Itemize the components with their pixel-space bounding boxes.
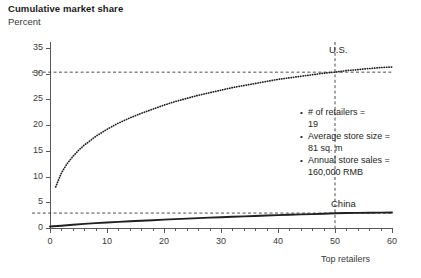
annotation-label: Average store size = [308, 131, 390, 141]
chart-subtitle: Percent [8, 16, 41, 27]
y-axis-label-20: 20 [14, 119, 43, 129]
x-axis-label-60: 60 [387, 236, 397, 246]
x-axis-label-20: 20 [159, 236, 169, 246]
y-axis-label-25: 25 [14, 93, 43, 103]
x-axis-label-50: 50 [330, 236, 340, 246]
annotation-item: Annual store sales =160,000 RMB [300, 155, 418, 178]
x-tick-60 [392, 228, 393, 233]
chart-figure: Cumulative market share Percent 05101520… [0, 0, 421, 278]
x-axis-title: Top retailers [321, 254, 370, 264]
annotation-item: Average store size =81 sq. m [300, 131, 418, 154]
annotation-label: Annual store sales = [308, 155, 390, 165]
y-axis-label-10: 10 [14, 171, 43, 181]
series-label-us: U.S. [329, 44, 347, 55]
y-axis-label-5: 5 [14, 196, 43, 206]
annotation-list: # of retailers =19Average store size =81… [300, 107, 418, 179]
annotation-box: # of retailers =19Average store size =81… [300, 107, 418, 180]
x-axis-label-10: 10 [102, 236, 112, 246]
chart-title: Cumulative market share [8, 3, 123, 14]
x-axis-label-30: 30 [216, 236, 226, 246]
y-axis-label-35: 35 [14, 42, 43, 52]
y-axis-label-15: 15 [14, 145, 43, 155]
annotation-item: # of retailers =19 [300, 107, 418, 130]
annotation-value: 81 sq. m [308, 143, 418, 155]
x-axis-label-0: 0 [47, 236, 52, 246]
annotation-label: # of retailers = [308, 107, 365, 117]
annotation-value: 160,000 RMB [308, 167, 418, 179]
series-label-china: China [331, 198, 356, 209]
annotation-value: 19 [308, 119, 418, 131]
x-axis-label-40: 40 [273, 236, 283, 246]
y-axis-label-0: 0 [14, 222, 43, 232]
y-axis-label-30: 30 [14, 68, 43, 78]
